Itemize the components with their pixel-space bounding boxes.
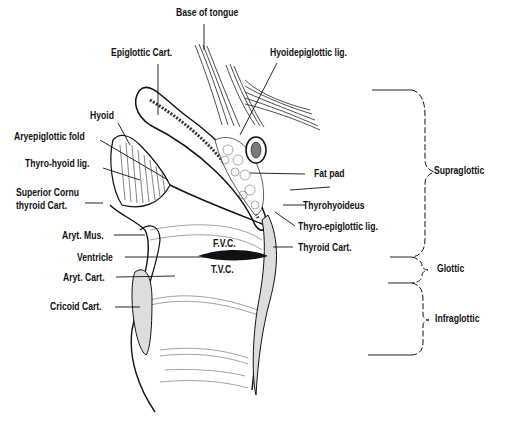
region-infraglottic: Infraglottic (435, 313, 479, 324)
label-thyro-epiglottic-lig: Thyro-epiglottic lig. (298, 221, 378, 232)
label-thyroid-cart: Thyroid Cart. (298, 242, 352, 253)
region-braces (412, 90, 434, 355)
label-thyrohyoideus: Thyrohyoideus (303, 200, 365, 211)
label-cricoid-cart: Cricoid Cart. (50, 301, 102, 312)
label-epiglottic-cart: Epiglottic Cart. (111, 47, 172, 58)
label-hyoid: Hyoid (90, 110, 114, 121)
ventricle-slit (198, 250, 268, 261)
label-hyoidepiglottic-lig: Hyoidepiglottic lig. (270, 47, 347, 58)
label-fat-pad: Fat pad (314, 168, 345, 179)
larynx-illustration (0, 0, 513, 426)
label-aryepiglottic-fold: Aryepiglottic fold (14, 131, 85, 142)
label-aryt-mus: Aryt. Mus. (62, 230, 104, 241)
label-thyro-hyoid-lig: Thyro-hyoid lig. (25, 158, 90, 169)
region-glottic: Glottic (437, 263, 464, 274)
thyroid-cartilage (253, 215, 276, 395)
region-supraglottic: Supraglottic (434, 165, 484, 176)
label-ventricle: Ventricle (77, 252, 113, 263)
label-tvc: T.V.C. (211, 264, 234, 275)
cricoid-cartilage (132, 270, 152, 355)
label-superior-cornu-thyroid-cart: thyroid Cart. (16, 200, 67, 211)
label-base-of-tongue: Base of tongue (176, 7, 238, 18)
thyrohyoid-membrane (111, 135, 170, 206)
label-fvc: F.V.C. (213, 238, 236, 249)
label-aryt-cart: Aryt. Cart. (63, 272, 105, 283)
label-superior-cornu: Superior Cornu (16, 187, 79, 198)
